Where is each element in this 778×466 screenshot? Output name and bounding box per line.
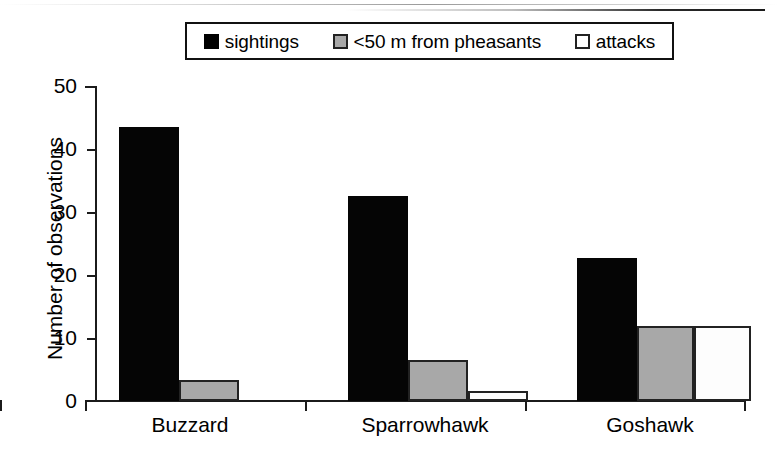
x-tick-boundary-2 xyxy=(525,400,527,411)
y-tick-40 xyxy=(87,149,96,151)
y-tick-30 xyxy=(87,212,96,214)
bar-sparrowhawk-near-pheasants xyxy=(408,360,468,401)
y-tick-label-20: 20 xyxy=(33,264,77,285)
plot-area: Number of observations 50 40 30 20 10 0 xyxy=(0,0,778,466)
x-label-goshawk: Goshawk xyxy=(565,414,735,435)
chart-figure: sightings <50 m from pheasants attacks N… xyxy=(0,0,778,466)
y-tick-20 xyxy=(87,275,96,277)
bar-goshawk-sightings xyxy=(577,258,637,401)
bar-goshawk-attacks xyxy=(694,326,751,401)
y-tick-label-10: 10 xyxy=(33,327,77,348)
bar-sparrowhawk-attacks xyxy=(468,391,528,401)
x-label-buzzard: Buzzard xyxy=(110,414,270,435)
bar-sparrowhawk-sightings xyxy=(348,196,408,401)
y-tick-label-30: 30 xyxy=(33,201,77,222)
y-tick-label-40: 40 xyxy=(33,138,77,159)
x-tick-start xyxy=(85,400,87,411)
y-tick-10 xyxy=(87,338,96,340)
x-tick-end xyxy=(744,400,746,411)
x-tick-1 xyxy=(0,400,2,411)
bar-goshawk-near-pheasants xyxy=(637,326,694,401)
y-tick-label-50: 50 xyxy=(33,75,77,96)
bar-buzzard-near-pheasants xyxy=(179,380,239,401)
y-tick-label-0: 0 xyxy=(33,390,77,411)
x-label-sparrowhawk: Sparrowhawk xyxy=(335,414,515,435)
x-tick-boundary-1 xyxy=(305,400,307,411)
bar-buzzard-sightings xyxy=(119,127,179,401)
y-tick-50 xyxy=(85,86,96,88)
y-axis-line xyxy=(95,86,97,401)
